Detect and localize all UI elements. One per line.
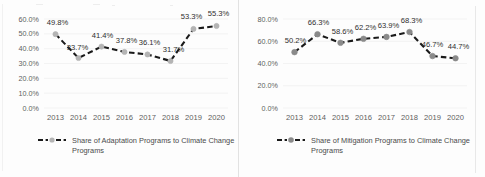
- data-point-marker: [338, 40, 344, 46]
- data-point-label: 46.7%: [422, 40, 444, 49]
- data-point-marker: [76, 55, 81, 60]
- y-axis-tick-label: 0.0%: [262, 104, 279, 113]
- data-point-label: 66.3%: [308, 18, 330, 27]
- data-point-label: 63.9%: [378, 21, 400, 30]
- x-axis-tick-label: 2015: [332, 113, 349, 122]
- data-point-label: 41.4%: [92, 31, 114, 40]
- data-point-marker: [122, 49, 127, 54]
- x-axis-tick-label: 2019: [424, 113, 441, 122]
- y-axis-tick-label: 0.0%: [23, 104, 40, 113]
- data-point-label: 36.1%: [139, 38, 161, 47]
- data-point-label: 58.6%: [332, 27, 354, 36]
- x-axis-tick-label: 2017: [378, 113, 395, 122]
- x-axis-tick-label: 2018: [162, 113, 179, 122]
- data-point-marker: [384, 34, 390, 40]
- data-point-label: 37.8%: [116, 36, 138, 45]
- y-axis-tick-label: 60.0%: [258, 37, 279, 46]
- x-axis-tick-label: 2020: [447, 113, 464, 122]
- y-axis-tick-label: 50.0%: [19, 29, 40, 38]
- data-point-label: 49.8%: [47, 18, 69, 27]
- x-axis-tick-label: 2016: [116, 113, 133, 122]
- data-point-label: 55.3%: [208, 9, 230, 18]
- y-axis-tick-label: 30.0%: [19, 59, 40, 68]
- legend-label: Share of Adaptation Programs to Climate …: [72, 136, 234, 145]
- dual-chart-board: 0.0%10.0%20.0%30.0%40.0%50.0%60.0%201320…: [0, 0, 485, 177]
- legend-label: Programs: [311, 146, 343, 155]
- x-axis-tick-label: 2017: [139, 113, 156, 122]
- data-point-marker: [361, 36, 367, 42]
- chart-panel-adaptation: 0.0%10.0%20.0%30.0%40.0%50.0%60.0%201320…: [0, 0, 239, 177]
- data-point-label: 33.7%: [67, 43, 89, 52]
- data-point-marker: [214, 23, 219, 28]
- x-axis-tick-label: 2019: [185, 113, 202, 122]
- y-axis-tick-label: 10.0%: [19, 89, 40, 98]
- y-axis-tick-label: 20.0%: [19, 74, 40, 83]
- line-chart-mitigation: 0.0%20.0%40.0%60.0%80.0%2013201420152016…: [239, 0, 485, 177]
- x-axis-tick-label: 2014: [309, 113, 326, 122]
- x-axis-tick-label: 2018: [401, 113, 418, 122]
- data-point-label: 31.7%: [163, 45, 185, 54]
- data-point-marker: [453, 55, 459, 61]
- data-point-marker: [145, 52, 150, 57]
- data-point-marker: [315, 31, 321, 37]
- legend-label: Programs: [72, 146, 104, 155]
- data-point-label: 53.3%: [181, 12, 203, 21]
- y-axis-tick-label: 20.0%: [258, 81, 279, 90]
- legend-marker-swatch: [288, 137, 294, 143]
- x-axis-tick-label: 2020: [208, 113, 225, 122]
- data-point-marker: [292, 49, 298, 55]
- legend-marker-swatch: [49, 137, 54, 142]
- x-axis-tick-label: 2013: [47, 113, 64, 122]
- data-point-marker: [430, 53, 436, 59]
- data-point-marker: [191, 26, 196, 31]
- data-point-marker: [168, 58, 173, 63]
- line-chart-adaptation: 0.0%10.0%20.0%30.0%40.0%50.0%60.0%201320…: [0, 0, 239, 177]
- data-point-label: 68.3%: [401, 16, 423, 25]
- data-point-label: 50.2%: [285, 36, 307, 45]
- data-point-marker: [407, 29, 413, 35]
- data-point-marker: [53, 32, 58, 37]
- y-axis-tick-label: 80.0%: [258, 15, 279, 24]
- y-axis-tick-label: 40.0%: [19, 44, 40, 53]
- legend-label: Share of Mitigation Programs to Climate …: [311, 136, 470, 145]
- data-point-label: 62.2%: [355, 23, 377, 32]
- y-axis-tick-label: 60.0%: [19, 15, 40, 24]
- x-axis-tick-label: 2014: [70, 113, 87, 122]
- data-point-marker: [99, 44, 104, 49]
- x-axis-tick-label: 2016: [355, 113, 372, 122]
- chart-panel-mitigation: 0.0%20.0%40.0%60.0%80.0%2013201420152016…: [239, 0, 485, 177]
- data-point-label: 44.7%: [448, 42, 470, 51]
- y-axis-tick-label: 40.0%: [258, 59, 279, 68]
- x-axis-tick-label: 2013: [286, 113, 303, 122]
- x-axis-tick-label: 2015: [93, 113, 110, 122]
